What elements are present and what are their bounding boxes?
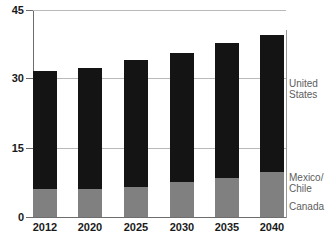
bar-segment-united-states-2020[interactable] [78, 68, 102, 189]
legend-label-united-states: United States [289, 78, 318, 100]
x-axis-tick-label-2030: 2030 [159, 221, 205, 233]
bar-group-2020[interactable] [78, 68, 102, 217]
legend-label-canada-line1: Canada [289, 201, 324, 212]
y-axis-tick-label-30: 30 [0, 73, 24, 84]
legend-label-mexico-chile-line2: Chile [289, 183, 323, 194]
bar-segment-united-states-2025[interactable] [124, 60, 148, 187]
x-axis-tick-label-2025: 2025 [113, 221, 159, 233]
y-axis-tick-mark-15 [26, 148, 33, 149]
legend-callout-line [286, 30, 287, 218]
bar-segment-united-states-2040[interactable] [260, 35, 284, 172]
bar-segment-united-states-2035[interactable] [215, 43, 239, 178]
bar-group-2040[interactable] [260, 35, 284, 217]
bar-group-2035[interactable] [215, 43, 239, 217]
bar-segment-canada-mexico-chile-2025[interactable] [124, 187, 148, 217]
y-axis-tick-label-0: 0 [0, 212, 24, 223]
bar-segment-canada-mexico-chile-2035[interactable] [215, 178, 239, 217]
y-axis-tick-label-45: 45 [0, 5, 24, 16]
legend-label-canada: Canada [289, 201, 324, 212]
y-axis-tick-mark-0 [26, 217, 33, 218]
y-axis-tick-mark-45 [26, 10, 33, 11]
bar-group-2030[interactable] [170, 53, 194, 217]
bar-group-2012[interactable] [33, 71, 57, 217]
bar-group-2025[interactable] [124, 60, 148, 217]
x-axis-line [33, 217, 286, 218]
bar-segment-canada-mexico-chile-2040[interactable] [260, 172, 284, 217]
bar-segment-canada-mexico-chile-2012[interactable] [33, 189, 57, 217]
legend-label-united-states-line1: United [289, 78, 318, 89]
bar-segment-united-states-2012[interactable] [33, 71, 57, 189]
legend-label-mexico-chile: Mexico/ Chile [289, 172, 323, 194]
x-axis-tick-label-2040: 2040 [249, 221, 295, 233]
x-axis-tick-label-2020: 2020 [67, 221, 113, 233]
bars-container [33, 10, 286, 217]
bar-segment-canada-mexico-chile-2030[interactable] [170, 182, 194, 217]
y-axis-tick-mark-30 [26, 78, 33, 79]
bar-segment-canada-mexico-chile-2020[interactable] [78, 189, 102, 217]
stacked-bar-chart: 45 30 15 0 [0, 0, 327, 239]
bar-segment-united-states-2030[interactable] [170, 53, 194, 182]
plot-area [33, 10, 286, 217]
y-axis-tick-label-15: 15 [0, 143, 24, 154]
x-axis-tick-label-2012: 2012 [22, 221, 68, 233]
legend-label-mexico-chile-line1: Mexico/ [289, 172, 323, 183]
legend-label-united-states-line2: States [289, 89, 318, 100]
x-axis-tick-label-2035: 2035 [204, 221, 250, 233]
